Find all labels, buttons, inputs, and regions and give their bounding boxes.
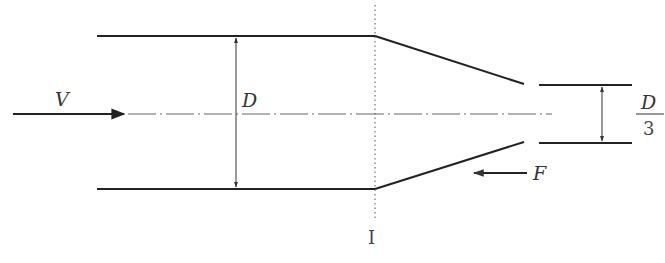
nozzle-diagram: V D I D 3 F [0, 0, 665, 263]
section-label: I [368, 227, 375, 248]
nozzle-top-wall [375, 36, 524, 84]
nozzle-bottom-wall [375, 142, 524, 189]
force-label: F [532, 162, 547, 184]
diameter-label: D [241, 89, 257, 111]
jet-diameter-denominator: 3 [643, 118, 654, 139]
jet-diameter-numerator: D [640, 91, 656, 113]
diagram-svg: V D I D 3 F [0, 0, 665, 263]
velocity-label: V [55, 88, 71, 110]
